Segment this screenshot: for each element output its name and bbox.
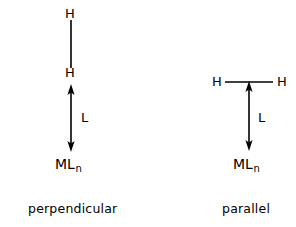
perpendicular-h-top-label: H [65,7,75,20]
dihydrogen-coordination-figure: H H L MLn perpendicular H H L MLn [0,0,296,227]
parallel-ligand-arrow [241,81,257,151]
parallel-metal-text: ML [233,156,253,172]
perpendicular-metal-subscript: n [75,163,82,174]
perpendicular-ligand-arrow [63,84,79,152]
parallel-metal-label: MLn [233,157,260,171]
parallel-h-right-label: H [277,75,287,88]
perpendicular-metal-label: MLn [55,157,82,171]
parallel-ligand-label: L [258,111,265,124]
perpendicular-ligand-label: L [81,111,88,124]
parallel-metal-subscript: n [253,163,260,174]
perpendicular-metal-text: ML [55,156,75,172]
parallel-caption: parallel [222,203,270,216]
perpendicular-caption: perpendicular [28,203,117,216]
parallel-h-left-label: H [212,75,222,88]
perpendicular-hh-bond-line [63,20,79,68]
perpendicular-h-bottom-label: H [65,66,75,79]
